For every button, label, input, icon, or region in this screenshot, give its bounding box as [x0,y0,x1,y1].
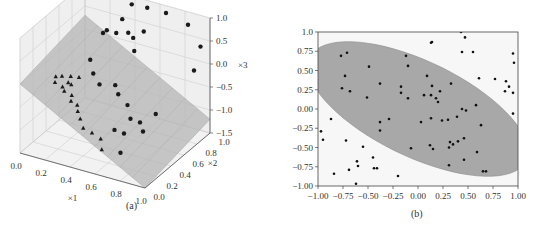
x1-tick-label: 0.8 [110,189,122,199]
x-tick-label: 0.75 [485,191,501,201]
y-tick-label: 0.00 [297,104,313,114]
data-point [478,77,481,80]
data-point [333,172,336,175]
data-point [431,41,434,44]
data-point-circle [122,131,126,135]
x3-axis-label: ×3 [238,60,248,70]
data-point-circle [101,31,105,35]
data-point [494,78,497,81]
x-tick-label: −0.50 [358,191,379,201]
data-point [345,139,348,142]
data-point [508,85,511,88]
data-point [322,139,325,142]
data-point [441,119,444,122]
data-point-circle [145,6,149,10]
data-point [437,101,440,104]
data-point [344,75,347,78]
data-point-circle [198,44,202,48]
y-tick-label: 0.75 [297,46,313,56]
data-point [407,97,410,100]
data-point [485,170,488,173]
data-point [376,167,379,170]
data-point [397,175,400,178]
data-point [439,90,442,93]
data-point [430,94,433,97]
data-point-circle [116,92,120,96]
data-point [465,109,468,112]
data-point-circle [112,128,116,132]
panel-a-3d-scatter: 0.00.20.40.60.81.0×10.00.20.40.60.81.0×2… [0,0,270,238]
data-point-circle [138,120,142,124]
x-tick-label: −0.25 [383,191,404,201]
data-point-circle [164,11,168,15]
data-point [450,82,453,85]
plot-2d: −1.00−0.75−0.50−0.250.000.250.500.751.00… [270,0,536,238]
data-point [461,108,464,111]
x-tick-label: −0.75 [333,191,354,201]
data-point [452,143,455,146]
x1-tick-label: 0.4 [60,175,72,185]
data-point [379,121,382,124]
x3-tick-label: 0.5 [216,36,228,46]
data-point-circle [113,83,117,87]
x2-tick-label: 0.0 [153,192,165,202]
x3-tick-label: 0.0 [216,59,228,69]
y-tick-label: 1.0 [302,27,314,37]
data-point [330,118,333,121]
caption-a: (a) [126,200,137,211]
y-tick-label: 0.50 [297,66,313,76]
data-point [448,146,451,149]
data-point [512,112,515,115]
x2-axis-label: ×2 [208,158,218,168]
data-point [410,147,413,150]
data-point-circle [141,129,145,133]
x2-tick-label: 0.8 [205,148,217,158]
data-point [372,156,375,159]
x-tick-label: −1.00 [308,191,329,201]
data-point [368,65,371,68]
data-point [357,165,360,168]
data-point [400,92,403,95]
data-point [505,80,508,83]
data-point-circle [131,36,135,40]
data-point-circle [118,151,122,155]
panel-b-2d-scatter: −1.00−0.75−0.50−0.250.000.250.500.751.00… [270,0,536,238]
data-point-circle [88,58,92,62]
data-point [320,130,323,133]
data-point-circle [91,71,95,75]
data-point [349,90,352,93]
y-tick-label: −0.75 [292,162,313,172]
data-point-circle [154,112,158,116]
data-point [400,85,403,88]
data-point [448,164,451,167]
data-point-circle [130,2,134,6]
data-point [348,169,351,172]
data-point [463,159,466,162]
data-point-circle [97,82,101,86]
data-point [420,121,423,124]
data-point [457,140,460,143]
x-tick-label: 1.00 [510,191,526,201]
data-point [379,129,382,132]
data-point [429,144,432,147]
data-point [355,182,358,185]
x-tick-label: 0.25 [435,191,451,201]
x2-tick-label: 0.2 [166,181,177,191]
data-point [464,36,467,39]
x2-tick-label: 1.0 [218,137,230,147]
x3-tick-label: −1.5 [216,128,233,138]
x1-tick-label: 0.2 [35,168,46,178]
data-point [432,148,435,151]
y-tick-label: 0.25 [297,85,313,95]
data-point [472,51,475,54]
data-point [435,97,438,100]
data-point [426,75,429,78]
x1-tick-label: 0.6 [85,182,97,192]
data-point [513,62,516,65]
data-point [430,117,433,120]
data-point-circle [126,31,130,35]
x1-tick-label: 0.0 [10,161,22,171]
data-point-circle [105,28,109,32]
data-point-circle [120,17,124,21]
data-point [480,124,483,127]
